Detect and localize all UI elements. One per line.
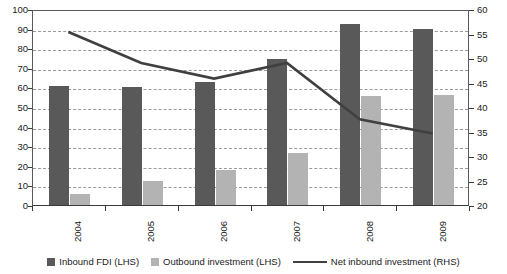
right-axis-tick-label: 40 [477,103,488,113]
right-axis-tick [469,133,474,134]
x-axis-tick [323,206,324,211]
chart-container: 0102030405060708090100 20253035404550556… [0,0,507,274]
x-axis-tick [396,206,397,211]
x-axis-category-labels: 200420052006200720082009 [32,206,469,248]
chart-legend: Inbound FDI (LHS)Outbound investment (LH… [0,252,507,272]
right-axis-tick-label: 20 [477,201,488,211]
x-axis-tick [251,206,252,211]
left-axis-tick-label: 20 [17,162,28,172]
x-axis-label-2005: 2005 [146,221,156,242]
x-axis-label-2004: 2004 [73,221,83,242]
x-axis-label-2006: 2006 [219,221,229,242]
right-axis-tick [469,182,474,183]
right-axis-tick-labels: 202530354045505560 [477,10,507,206]
right-axis-tick [469,59,474,60]
x-axis-tick [469,206,470,211]
left-axis-tick-labels: 0102030405060708090100 [0,10,28,206]
right-axis-tick-label: 35 [477,128,488,138]
right-axis-tick [469,35,474,36]
right-axis-tick-marks [469,10,474,206]
right-axis-tick-label: 50 [477,54,488,64]
x-axis-label-2009: 2009 [438,221,448,242]
x-axis-tick [105,206,106,211]
line-series-net-inbound-investment [32,10,469,206]
legend-label: Net inbound investment (RHS) [331,257,460,267]
right-axis-tick-label: 60 [477,5,488,15]
left-axis-tick-label: 100 [12,5,28,15]
x-axis-label-2007: 2007 [292,221,302,242]
net-inbound-investment-polyline [68,32,432,133]
left-axis-tick-label: 40 [17,123,28,133]
legend-label: Inbound FDI (LHS) [59,257,139,267]
left-axis-tick-label: 80 [17,44,28,54]
x-axis-label-2008: 2008 [365,221,375,242]
legend-item-3[interactable]: Net inbound investment (RHS) [293,257,460,267]
x-axis-tick [32,206,33,211]
x-axis-tick [178,206,179,211]
left-axis-tick-label: 10 [17,181,28,191]
legend-item-1[interactable]: Inbound FDI (LHS) [47,257,139,267]
right-axis-tick [469,157,474,158]
right-axis-tick [469,108,474,109]
left-axis-tick-label: 90 [17,25,28,35]
right-axis-tick [469,10,474,11]
right-axis-tick-label: 45 [477,79,488,89]
left-axis-tick-label: 70 [17,64,28,74]
legend-item-2[interactable]: Outbound investment (LHS) [151,257,281,267]
legend-line-swatch-icon [293,261,327,263]
left-axis-tick-label: 30 [17,142,28,152]
right-axis-tick [469,84,474,85]
legend-label: Outbound investment (LHS) [163,257,281,267]
left-axis-tick-label: 60 [17,83,28,93]
legend-square-swatch-icon [151,258,159,266]
right-axis-tick-label: 25 [477,177,488,187]
right-axis-tick-label: 30 [477,152,488,162]
left-axis-tick-label: 50 [17,103,28,113]
legend-square-swatch-icon [47,258,55,266]
right-axis-tick-label: 55 [477,30,488,40]
